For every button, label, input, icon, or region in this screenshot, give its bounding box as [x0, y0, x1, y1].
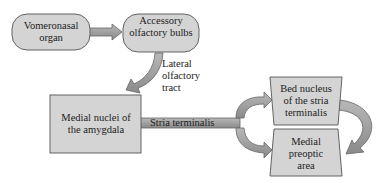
lateral-olfactory-tract-arrow	[126, 53, 163, 93]
vomeronasal-label: Vomeronasal organ	[14, 20, 88, 44]
arrow-vomeronasal-accessory	[89, 24, 122, 40]
preoptic-label: Medial preoptic area	[280, 136, 332, 172]
loop-arrow-right	[338, 100, 372, 154]
bed-nucleus-label: Bed nucleus of the stria terminalis	[276, 83, 336, 119]
stria-label: Stria terminalis	[150, 117, 240, 129]
medial-nuclei-label: Medial nuclei of the amygdala	[54, 112, 138, 136]
lateral-tract-label: Lateral olfactory tract	[162, 58, 212, 94]
loop-arrow-upper-left	[236, 92, 272, 118]
accessory-label: Accessory olfactory bulbs	[126, 15, 196, 39]
loop-arrow-lower-left	[236, 128, 272, 158]
